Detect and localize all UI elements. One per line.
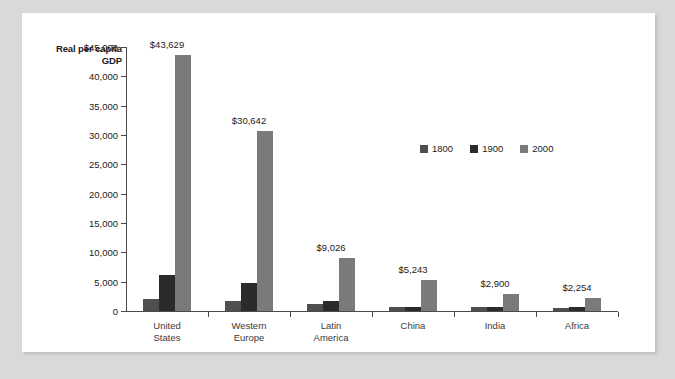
x-tick-mark — [372, 312, 373, 317]
bar-chart: Real per capita GDP 05,00010,00015,00020… — [22, 13, 655, 352]
bar-1900 — [569, 307, 585, 311]
bar-1900 — [487, 307, 503, 311]
y-tick-label: 15,000 — [89, 218, 118, 229]
chart-card: Real per capita GDP 05,00010,00015,00020… — [22, 13, 655, 352]
bar-1800 — [389, 307, 405, 311]
bar-value-label: $43,629 — [150, 39, 184, 50]
bar-group: $43,629United States — [126, 47, 208, 311]
x-axis-category-label: Africa — [565, 320, 589, 332]
x-tick-mark — [208, 312, 209, 317]
bar-1800 — [225, 301, 241, 311]
x-tick-mark — [618, 312, 619, 317]
y-tick-mark — [121, 311, 126, 312]
bar-1900 — [241, 283, 257, 311]
y-tick-label: 0 — [113, 306, 118, 317]
plot-area: 05,00010,00015,00020,00025,00030,00035,0… — [126, 47, 618, 312]
bar-1900 — [405, 307, 421, 311]
bar-1800 — [471, 307, 487, 311]
bar-2000 — [421, 280, 437, 311]
x-axis-category-label: United States — [153, 320, 180, 343]
bar-value-label: $2,254 — [562, 282, 591, 293]
bar-group-bars — [454, 47, 536, 311]
legend-label: 2000 — [532, 143, 553, 154]
legend-item: 2000 — [520, 143, 553, 154]
bar-2000 — [257, 131, 273, 311]
bar-1900 — [159, 275, 175, 311]
bar-group: $2,254Africa — [536, 47, 618, 311]
y-tick-label: 35,000 — [89, 100, 118, 111]
x-axis-category-label: Latin America — [314, 320, 349, 343]
page: Real per capita GDP 05,00010,00015,00020… — [0, 0, 675, 379]
legend-swatch-icon — [470, 145, 478, 153]
bar-group: $9,026Latin America — [290, 47, 372, 311]
y-tick-label: 40,000 — [89, 71, 118, 82]
bar-2000 — [339, 258, 355, 311]
legend-label: 1900 — [482, 143, 503, 154]
y-tick-label: 25,000 — [89, 159, 118, 170]
legend-swatch-icon — [420, 145, 428, 153]
y-tick-label: 30,000 — [89, 130, 118, 141]
legend: 180019002000 — [420, 143, 553, 154]
legend-item: 1900 — [470, 143, 503, 154]
x-axis-category-label: China — [401, 320, 426, 332]
x-axis-category-label: India — [485, 320, 506, 332]
bar-group-bars — [536, 47, 618, 311]
bar-1800 — [553, 308, 569, 311]
bar-1800 — [143, 299, 159, 311]
legend-label: 1800 — [432, 143, 453, 154]
bar-value-label: $2,900 — [480, 278, 509, 289]
bar-2000 — [503, 294, 519, 311]
x-tick-mark — [454, 312, 455, 317]
bar-group: $30,642Western Europe — [208, 47, 290, 311]
x-axis-category-label: Western Europe — [231, 320, 266, 343]
bar-value-label: $30,642 — [232, 115, 266, 126]
bar-value-label: $9,026 — [316, 242, 345, 253]
bar-2000 — [585, 298, 601, 311]
bar-group: $2,900India — [454, 47, 536, 311]
bar-group-bars — [208, 47, 290, 311]
bar-group-bars — [126, 47, 208, 311]
bar-1800 — [307, 304, 323, 311]
legend-item: 1800 — [420, 143, 453, 154]
bar-group-bars — [290, 47, 372, 311]
x-tick-mark — [536, 312, 537, 317]
y-tick-label: 20,000 — [89, 188, 118, 199]
bar-1900 — [323, 301, 339, 311]
bar-value-label: $5,243 — [398, 264, 427, 275]
y-tick-label: $45,000 — [84, 42, 118, 53]
bar-group: $5,243China — [372, 47, 454, 311]
bar-2000 — [175, 55, 191, 311]
y-tick-label: 5,000 — [94, 276, 118, 287]
x-tick-mark — [290, 312, 291, 317]
y-tick-label: 10,000 — [89, 247, 118, 258]
legend-swatch-icon — [520, 145, 528, 153]
